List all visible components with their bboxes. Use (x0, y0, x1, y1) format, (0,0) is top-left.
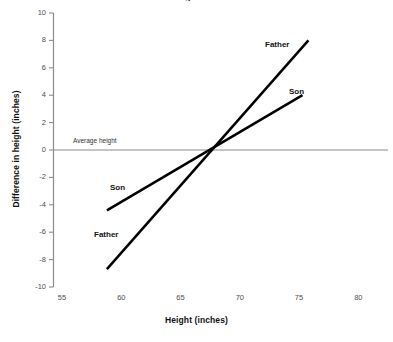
series-line-father (107, 40, 309, 269)
y-tick-label: 6 (24, 64, 46, 72)
y-axis-title: Difference in height (inches) (11, 69, 21, 229)
y-tick-label: -2 (24, 173, 46, 181)
y-tick-label: 10 (24, 9, 46, 17)
y-tick-label: -4 (24, 201, 46, 209)
y-tick-label: -6 (24, 228, 46, 236)
x-tick-label: 80 (346, 294, 370, 302)
y-axis-ticks (49, 13, 54, 287)
y-tick-label: -8 (24, 256, 46, 264)
x-axis-title: Height (inches) (0, 315, 393, 325)
series-label-father-lower: Father (94, 230, 118, 239)
y-tick-label: 4 (24, 91, 46, 99)
series-label-son-lower: Son (110, 183, 125, 192)
x-tick-label: 70 (228, 294, 252, 302)
series-label-father-upper: Father (265, 40, 289, 49)
average-height-label: Average height (73, 137, 117, 145)
y-tick-label: 8 (24, 36, 46, 44)
y-tick-label: 2 (24, 119, 46, 127)
series-line-son (107, 95, 303, 210)
y-tick-label: -10 (24, 283, 46, 291)
chart-root: Regression 10 8 6 4 2 0 -2 -4 - (0, 0, 393, 342)
x-tick-label: 60 (109, 294, 133, 302)
x-tick-label: 55 (50, 294, 74, 302)
y-tick-label: 0 (24, 146, 46, 154)
series-label-son-upper: Son (289, 87, 304, 96)
x-tick-label: 65 (169, 294, 193, 302)
plot-area (0, 0, 393, 342)
x-tick-label: 75 (287, 294, 311, 302)
